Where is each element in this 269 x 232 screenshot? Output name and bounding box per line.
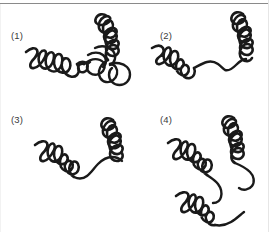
panel-4-tail — [215, 212, 244, 225]
panel-2-label: (2) — [160, 30, 172, 41]
panel-2-helix-a — [152, 46, 195, 78]
panel-4-graphic — [168, 116, 254, 225]
panel-3-helix-a — [35, 141, 79, 177]
panel-4-label: (4) — [160, 114, 172, 125]
panel-4-helix-a — [168, 139, 212, 175]
panel-1-graphic — [26, 14, 130, 85]
panel-2-graphic — [152, 12, 253, 78]
panel-1-label: (1) — [11, 30, 23, 41]
panel-1-tangle — [77, 46, 130, 85]
panel-3-graphic — [35, 118, 123, 178]
panel-4-connector-ac — [207, 175, 221, 203]
panel-3-helix-b — [101, 118, 122, 161]
panel-4-connector-bc — [235, 163, 254, 190]
panel-2-connector-loop — [194, 59, 246, 70]
panel-2-helix-b — [231, 12, 252, 61]
figure-canvas — [0, 0, 269, 232]
panel-3-label: (3) — [11, 114, 23, 125]
panel-1-helix-a — [26, 48, 79, 77]
panel-4-helix-b — [222, 116, 243, 163]
panel-4-helix-c — [176, 192, 215, 225]
figure-root: (1) (2) (3) (4) — [0, 0, 269, 232]
